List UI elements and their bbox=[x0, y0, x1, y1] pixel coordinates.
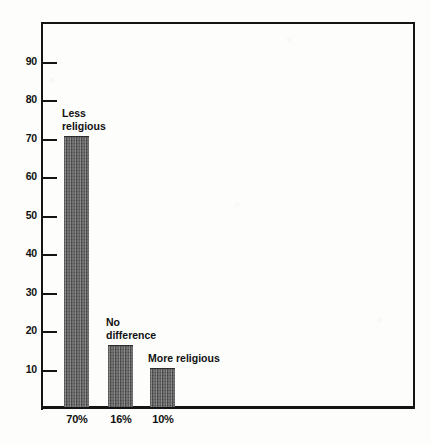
bar-annotation-less-religious: Less religious bbox=[62, 107, 106, 132]
x-axis-baseline bbox=[41, 406, 415, 409]
bar-less-religious bbox=[64, 136, 89, 407]
bar-annotation-more-religious: More religious bbox=[148, 352, 220, 365]
y-tick-60 bbox=[43, 177, 57, 179]
x-tick-label-16-percent: 16% bbox=[100, 413, 142, 425]
bar-annotation-no-difference: No difference bbox=[106, 316, 156, 341]
plot-frame-border bbox=[41, 22, 415, 408]
y-tick-label-20: 20 bbox=[11, 325, 37, 336]
x-tick-label-70-percent: 70% bbox=[56, 413, 98, 425]
y-tick-90 bbox=[43, 62, 57, 64]
bar-more-religious bbox=[150, 368, 175, 407]
y-tick-label-90: 90 bbox=[11, 56, 37, 67]
y-tick-label-40: 40 bbox=[11, 248, 37, 259]
y-tick-40 bbox=[43, 254, 57, 256]
chart-page: 90 80 70 60 50 40 30 20 10 Less religiou… bbox=[0, 0, 431, 445]
x-tick-label-10-percent: 10% bbox=[142, 413, 184, 425]
bar-no-difference bbox=[108, 345, 133, 407]
y-tick-70 bbox=[43, 139, 57, 141]
y-tick-label-70: 70 bbox=[11, 133, 37, 144]
y-tick-label-30: 30 bbox=[11, 287, 37, 298]
y-tick-80 bbox=[43, 100, 57, 102]
y-tick-50 bbox=[43, 216, 57, 218]
y-tick-label-50: 50 bbox=[11, 210, 37, 221]
y-tick-label-10: 10 bbox=[11, 364, 37, 375]
y-tick-label-60: 60 bbox=[11, 171, 37, 182]
y-tick-10 bbox=[43, 370, 57, 372]
y-tick-label-80: 80 bbox=[11, 94, 37, 105]
y-tick-20 bbox=[43, 331, 57, 333]
y-tick-30 bbox=[43, 293, 57, 295]
